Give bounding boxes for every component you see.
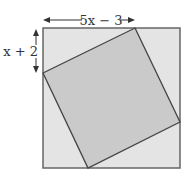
side-dimension-label: x + 2	[3, 44, 38, 59]
diagram: 5x − 3 x + 2	[0, 0, 183, 174]
top-dimension-label: 5x − 3	[79, 13, 122, 28]
